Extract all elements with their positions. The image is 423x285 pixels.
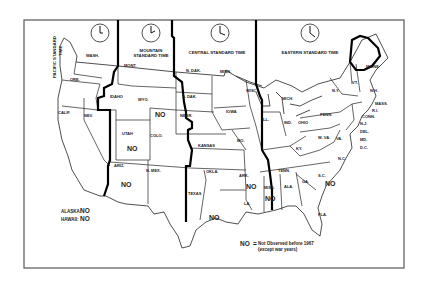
label-iowa: IOWA — [226, 109, 237, 114]
label-nebr: NEBR. — [180, 113, 192, 118]
pacific-zone-label: PACIFIC STANDARD — [52, 36, 57, 78]
label-okla: OKLA. — [206, 169, 218, 174]
no-sc: NO — [325, 180, 336, 187]
clock-eastern — [301, 24, 319, 42]
label-la: LA. — [244, 201, 250, 206]
label-sdak: S. DAK. — [182, 94, 197, 99]
label-conn: CONN. — [362, 114, 375, 119]
label-utah: UTAH — [122, 131, 133, 136]
label-ny: N.Y. — [332, 88, 339, 93]
legend-key: NO — [240, 240, 250, 247]
us-time-zone-map: PACIFIC STANDARD TIME MOUNTAIN STANDARD … — [0, 0, 423, 285]
label-nj: N.J. — [360, 121, 367, 126]
label-ri: R.I. — [372, 108, 378, 113]
legend-line1: Not Observed before 1967 — [258, 241, 314, 246]
hawaii-no: NO — [80, 215, 90, 222]
alaska-label: ALASKA: — [61, 209, 82, 214]
label-vt: VT. — [352, 80, 358, 85]
label-mass: MASS. — [375, 101, 388, 106]
label-ky: KY. — [296, 146, 302, 151]
label-texas: TEXAS — [188, 191, 202, 196]
mountain-zone-label-2: STANDARD TIME — [133, 53, 168, 58]
no-wyo: NO — [155, 111, 166, 118]
label-va: VA. — [336, 136, 342, 141]
label-wyo: WYO. — [138, 97, 149, 102]
label-wisc: WISC. — [246, 88, 258, 93]
label-ark: ARK. — [239, 173, 249, 178]
label-del: DEL. — [360, 129, 369, 134]
hawaii-label: HAWAII: — [61, 217, 79, 222]
no-utah: NO — [127, 145, 138, 152]
label-ohio: OHIO — [298, 120, 308, 125]
label-ill: ILL. — [262, 117, 269, 122]
alaska-no: NO — [80, 207, 90, 214]
label-ore: ORE. — [70, 77, 80, 82]
label-dc: D.C. — [360, 145, 368, 150]
label-tenn: TENN. — [278, 168, 290, 173]
label-minn: MINN. — [220, 69, 231, 74]
label-ndak: N. DAK. — [186, 68, 201, 73]
label-nev: NEV. — [84, 113, 93, 118]
no-texas: NO — [209, 214, 220, 221]
label-kansas: KANSAS — [198, 143, 215, 148]
label-sc: S.C. — [318, 173, 326, 178]
legend-equals: = — [253, 240, 257, 247]
label-nc: N.C. — [338, 156, 346, 161]
label-wva: W. VA. — [318, 135, 330, 140]
label-md: MD. — [360, 137, 367, 142]
label-mont: MONT. — [124, 63, 136, 68]
pacific-zone-label-2: TIME — [58, 46, 63, 56]
label-wash: WASH. — [86, 53, 99, 58]
label-ga: GA. — [302, 179, 309, 184]
legend-line2: (except war years) — [258, 247, 298, 252]
no-ark: NO — [246, 183, 257, 190]
label-ala: ALA. — [284, 184, 293, 189]
label-colo: COLO. — [150, 133, 163, 138]
clock-mountain — [142, 24, 160, 42]
no-miss: NO — [265, 195, 276, 202]
label-mo: MO. — [237, 138, 245, 143]
label-ariz: ARIZ. — [114, 163, 124, 168]
label-maine: MAINE — [366, 64, 379, 69]
label-nmex: N. MEX. — [146, 168, 161, 173]
label-calif: CALIF. — [58, 110, 70, 115]
label-ind: IND. — [284, 120, 292, 125]
eastern-zone-label: EASTERN STANDARD TIME — [282, 50, 339, 55]
label-fla: FLA. — [318, 212, 327, 217]
label-penn: PENN. — [320, 112, 332, 117]
label-miss: MISS. — [264, 185, 275, 190]
central-zone-label: CENTRAL STANDARD TIME — [189, 50, 246, 55]
clock-central — [211, 24, 229, 42]
clock-pacific — [91, 24, 109, 42]
no-ariz: NO — [121, 181, 132, 188]
label-mich: MICH. — [282, 96, 293, 101]
label-nh: N.H. — [370, 88, 378, 93]
label-idaho: IDAHO — [110, 94, 123, 99]
